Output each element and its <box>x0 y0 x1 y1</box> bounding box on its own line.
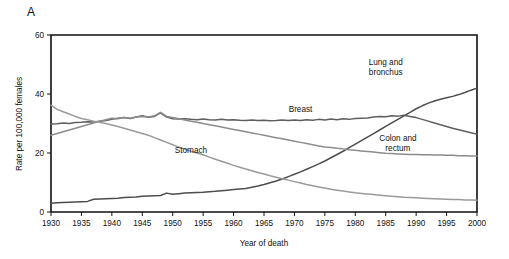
x-tick-label: 1935 <box>72 219 91 228</box>
x-axis-title: Year of death <box>240 239 289 248</box>
x-tick-label: 1995 <box>437 219 456 228</box>
y-tick-label: 20 <box>35 149 45 158</box>
y-tick-label: 0 <box>39 208 44 217</box>
x-tick-label: 1960 <box>224 219 243 228</box>
x-tick-label: 1985 <box>377 219 396 228</box>
y-tick-label: 60 <box>35 31 45 40</box>
y-tick-label: 40 <box>35 90 45 99</box>
x-tick-label: 1965 <box>255 219 274 228</box>
line-chart: 0204060 19301935194019451950195519601965… <box>0 0 509 259</box>
series-label: Breast <box>289 105 313 114</box>
x-tick-label: 1990 <box>407 219 426 228</box>
x-tick-label: 1930 <box>42 219 61 228</box>
chart-figure: A 0204060 193019351940194519501955196019… <box>0 0 509 259</box>
series-annotations: Lung andbronchusBreastColon andrectumSto… <box>175 58 417 156</box>
y-axis-ticks: 0204060 <box>35 31 51 217</box>
axis-frame <box>51 35 477 212</box>
series-label: Lung and <box>369 58 404 67</box>
series-label: Stomach <box>175 146 208 155</box>
x-tick-label: 1975 <box>316 219 335 228</box>
x-tick-label: 1940 <box>103 219 122 228</box>
series-label: Colon and <box>379 134 417 143</box>
y-axis-title: Rate per 100,000 females <box>15 77 24 171</box>
x-tick-label: 1980 <box>346 219 365 228</box>
series-line <box>51 113 477 134</box>
series-label: rectum <box>385 144 410 153</box>
x-tick-label: 1945 <box>133 219 152 228</box>
series-line <box>51 88 477 203</box>
series-label: bronchus <box>369 68 403 77</box>
x-tick-label: 2000 <box>468 219 487 228</box>
x-tick-label: 1950 <box>164 219 183 228</box>
x-axis-ticks: 1930193519401945195019551960196519701975… <box>42 212 487 228</box>
x-tick-label: 1955 <box>194 219 213 228</box>
data-series-group <box>51 88 477 203</box>
x-tick-label: 1970 <box>285 219 304 228</box>
